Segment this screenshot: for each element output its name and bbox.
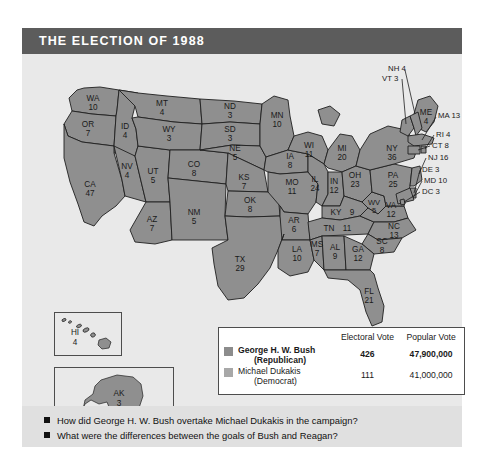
state-label-wy-votes: 3 <box>167 134 172 143</box>
state-label-me-votes: 4 <box>424 117 429 126</box>
bullet-icon <box>44 432 50 438</box>
state-label-sc-code: SC <box>376 237 387 246</box>
state-label-ca-votes: 47 <box>85 189 95 198</box>
figure-page: THE ELECTION OF 1988 <box>0 0 484 465</box>
column-header-popular-vote: Popular Vote <box>398 328 464 345</box>
hawaii-island-4 <box>82 327 89 333</box>
bullet-icon <box>44 417 50 423</box>
candidate-cell-democrat: Michael Dukakis (Democrat) <box>219 366 337 387</box>
state-label-al-votes: 9 <box>333 252 338 261</box>
state-label-wi-code: WI <box>304 141 314 150</box>
state-label-tx-code: TX <box>235 255 246 264</box>
state-label-or-code: OR <box>82 120 94 129</box>
state-label-ct: CT 8 <box>432 141 449 150</box>
state-label-id-votes: 4 <box>123 131 128 140</box>
state-label-az-votes: 7 <box>150 224 155 233</box>
state-label-va-code: VA <box>386 201 397 210</box>
state-label-co-votes: 8 <box>192 169 197 178</box>
state-label-de: DE 3 <box>422 165 439 174</box>
state-label-mi-code: MI <box>337 144 346 153</box>
hawaii-big-island <box>98 338 111 349</box>
state-label-mo-votes: 11 <box>288 187 297 196</box>
state-label-oh-votes: 23 <box>350 180 360 189</box>
state-label-la-code: LA <box>292 245 303 254</box>
state-label-nm-votes: 5 <box>192 217 197 226</box>
results-legend: Electoral Vote Popular Vote George H. W.… <box>218 327 465 395</box>
state-label-sd-code: SD <box>224 125 235 134</box>
state-label-ak-code: AK <box>114 389 125 398</box>
state-label-ky: KY <box>331 208 342 217</box>
state-label-fl-votes: 21 <box>364 296 374 305</box>
column-header-electoral-vote: Electoral Vote <box>337 328 399 345</box>
election-figure-panel: THE ELECTION OF 1988 <box>22 28 462 447</box>
hawaii-island-5 <box>90 332 96 338</box>
state-label-nj: NJ 16 <box>428 153 448 162</box>
state-label-nd-votes: 3 <box>228 111 233 120</box>
state-label-wi-votes: 11 <box>305 150 314 159</box>
state-label-id-code: ID <box>121 122 129 131</box>
state-label-ny-votes: 36 <box>387 153 397 162</box>
state-label-ca-code: CA <box>84 180 96 189</box>
state-label-ms-votes: 7 <box>315 249 320 258</box>
state-label-az-code: AZ <box>147 215 157 224</box>
state-label-me-code: ME <box>420 108 433 117</box>
state-label-tn-votes: 11 <box>343 224 352 233</box>
electoral-vote-republican: 426 <box>337 345 399 366</box>
state-label-pa-votes: 25 <box>388 180 398 189</box>
state-shape-ma <box>408 134 434 146</box>
state-label-vt: VT 3 <box>382 74 398 83</box>
state-label-nv-votes: 4 <box>125 171 130 180</box>
state-label-nc-code: NC <box>388 222 400 231</box>
table-header-row: Electoral Vote Popular Vote <box>219 328 464 345</box>
hawaii-island-2 <box>68 320 72 323</box>
state-label-sd-votes: 3 <box>228 134 233 143</box>
legend-swatch-republican <box>224 347 233 356</box>
state-label-ms-code: MS <box>311 240 324 249</box>
table-row: George H. W. Bush (Republican) 426 47,90… <box>219 345 464 366</box>
candidate-name-democrat: Michael Dukakis <box>238 366 301 376</box>
state-label-wa-votes: 10 <box>88 103 98 112</box>
state-label-ky-votes: 9 <box>350 208 355 217</box>
state-label-ok-code: OK <box>244 196 256 205</box>
state-label-ia-code: IA <box>286 152 294 161</box>
state-label-ga-votes: 12 <box>353 254 363 263</box>
state-label-mt-code: MT <box>156 99 168 108</box>
state-label-md: MD 10 <box>424 176 448 185</box>
candidate-party-democrat: (Democrat) <box>238 376 301 386</box>
state-label-il-code: IL <box>312 175 319 184</box>
state-label-ri: RI 4 <box>436 130 451 139</box>
state-shape-fl <box>324 270 384 326</box>
results-table: Electoral Vote Popular Vote George H. W.… <box>219 328 464 387</box>
state-label-in-code: IN <box>330 177 338 186</box>
hawaii-map: HI 4 <box>55 313 121 355</box>
state-label-ga-code: GA <box>352 245 364 254</box>
state-label-wy-code: WY <box>162 125 176 134</box>
state-label-ny-code: NY <box>386 144 398 153</box>
state-label-tn: TN <box>324 224 335 233</box>
state-label-sc-votes: 8 <box>380 246 385 255</box>
state-label-ne-code: NE <box>229 144 241 153</box>
candidate-party-republican: (Republican) <box>238 355 315 365</box>
state-label-nd-code: ND <box>224 102 236 111</box>
state-label-va-votes: 12 <box>386 210 396 219</box>
state-label-co-code: CO <box>188 160 200 169</box>
state-label-ks-votes: 7 <box>242 182 247 191</box>
state-label-ks-code: KS <box>239 173 250 182</box>
candidate-name-republican: George H. W. Bush <box>238 345 315 355</box>
state-label-al-code: AL <box>330 243 340 252</box>
candidate-cell-republican: George H. W. Bush (Republican) <box>219 345 337 366</box>
state-label-ut-votes: 5 <box>151 176 156 185</box>
state-label-wa-code: WA <box>87 94 100 103</box>
column-header-candidate <box>219 328 337 345</box>
state-label-dc: DC 3 <box>422 187 440 196</box>
question-item: How did George H. W. Bush overtake Micha… <box>44 415 358 426</box>
state-label-nh: NH 4 <box>388 64 406 73</box>
state-label-tx-votes: 29 <box>235 264 245 273</box>
questions-box: How did George H. W. Bush overtake Micha… <box>22 406 462 447</box>
state-label-nc-votes: 13 <box>389 231 399 240</box>
hawaii-inset: HI 4 <box>54 312 122 356</box>
state-label-ne-votes: 5 <box>233 153 238 162</box>
state-label-ut-code: UT <box>148 167 159 176</box>
question-text: What were the differences between the go… <box>57 430 338 441</box>
state-label-in-votes: 12 <box>329 186 339 195</box>
